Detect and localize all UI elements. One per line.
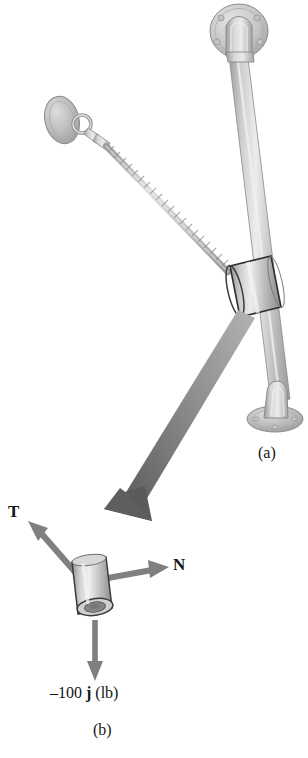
- vector-arrow-N: [108, 560, 169, 578]
- panel-a-artwork: [40, 4, 303, 432]
- collar-on-rod: [222, 255, 287, 318]
- vector-label-weight: –100 j (lb): [50, 685, 118, 701]
- figure-container: T N –100 j (lb) (a) (b): [0, 0, 308, 758]
- collar-free-body: [71, 552, 114, 618]
- caption-panel-a: (a): [258, 445, 276, 461]
- weight-units: (lb): [91, 684, 118, 701]
- caption-panel-b: (b): [93, 722, 112, 738]
- lower-wall-flange: [247, 381, 303, 432]
- vector-label-T: T: [8, 503, 20, 520]
- vector-label-N: N: [173, 556, 186, 573]
- vector-arrow-weight: [87, 620, 103, 681]
- figure-artwork: [0, 0, 308, 758]
- vector-arrow-T: [28, 521, 75, 572]
- weight-magnitude: –100: [50, 684, 86, 701]
- panel-b-artwork: [28, 521, 169, 681]
- cable-anchor-plate: [40, 93, 85, 148]
- inclined-rod: [228, 42, 290, 404]
- upper-wall-flange: [210, 4, 268, 62]
- cable: [106, 146, 228, 272]
- transition-arrow: [104, 310, 255, 521]
